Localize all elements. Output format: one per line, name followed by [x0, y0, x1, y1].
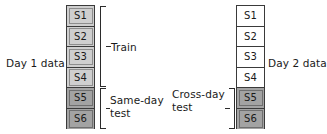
day1-cell-s6-label: S6	[74, 113, 87, 124]
day1-column: S1 S2 S3 S4 S5 S6	[66, 5, 95, 129]
day2-cell-s3-label: S3	[244, 51, 257, 62]
day1-cell-s1-label: S1	[74, 10, 87, 21]
day2-column: S1 S2 S3 S4 S5 S6	[236, 5, 265, 129]
day1-cell-s4[interactable]: S4	[67, 68, 94, 89]
day1-cell-s5[interactable]: S5	[67, 88, 94, 109]
day1-cell-s5-label: S5	[74, 92, 87, 103]
day2-cell-s6[interactable]: S6	[237, 109, 264, 130]
day2-crossday-bracket-tick	[225, 108, 230, 109]
day2-axis-label: Day 2 data	[268, 57, 327, 69]
day1-cell-s1[interactable]: S1	[67, 6, 94, 27]
day1-sameday-label-line1: Same-day	[110, 94, 164, 107]
day1-cell-s2-label: S2	[74, 31, 87, 42]
day1-train-label: Train	[111, 41, 137, 53]
day1-cell-s6[interactable]: S6	[67, 109, 94, 130]
day2-cell-s2[interactable]: S2	[237, 27, 264, 48]
day2-cell-s5[interactable]: S5	[237, 88, 264, 109]
day2-cell-s2-label: S2	[244, 31, 257, 42]
day2-cell-s4-label: S4	[244, 72, 257, 83]
day1-cell-s3[interactable]: S3	[67, 47, 94, 68]
day1-cell-s4-label: S4	[74, 72, 87, 83]
day1-cell-s3-label: S3	[74, 51, 87, 62]
day2-cell-s5-label: S5	[244, 92, 257, 103]
day2-cell-s1[interactable]: S1	[237, 6, 264, 27]
day2-cell-s6-label: S6	[244, 113, 257, 124]
figure-canvas: Day 1 data S1 S2 S3 S4 S5 S6 Train Same-…	[0, 0, 327, 134]
day2-cell-s1-label: S1	[244, 10, 257, 21]
day2-crossday-label-line2: test	[172, 101, 193, 114]
day2-cell-s3[interactable]: S3	[237, 47, 264, 68]
day1-sameday-label-line2: test	[110, 107, 131, 120]
day1-axis-label: Day 1 data	[6, 57, 65, 69]
day2-cell-s4[interactable]: S4	[237, 68, 264, 89]
day1-cell-s2[interactable]: S2	[67, 27, 94, 48]
day2-crossday-label-line1: Cross-day	[172, 88, 225, 101]
